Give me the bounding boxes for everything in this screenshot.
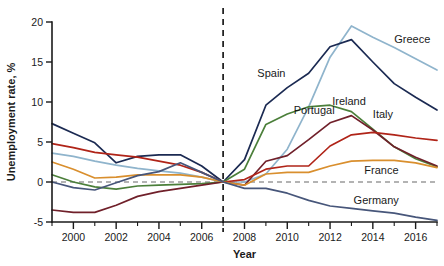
series-label-france: France — [364, 164, 398, 176]
chart-plot-area: -505101520200020022004200620082010201220… — [0, 0, 444, 266]
x-axis-title: Year — [233, 248, 257, 260]
unemployment-rate-chart: -505101520200020022004200620082010201220… — [0, 0, 444, 266]
x-tick-label-2016: 2016 — [404, 231, 428, 243]
y-tick-label-0: 0 — [37, 176, 43, 188]
series-label-italy: Italy — [373, 108, 394, 120]
y-tick-label--5: -5 — [34, 216, 43, 228]
x-tick-label-2014: 2014 — [361, 231, 385, 243]
x-tick-label-2006: 2006 — [190, 231, 214, 243]
y-tick-label-20: 20 — [31, 16, 43, 28]
x-tick-label-2008: 2008 — [233, 231, 257, 243]
series-label-greece: Greece — [394, 33, 430, 45]
series-label-portugal: Portugal — [294, 104, 335, 116]
y-tick-label-10: 10 — [31, 96, 43, 108]
y-tick-label-15: 15 — [31, 56, 43, 68]
y-tick-label-5: 5 — [37, 136, 43, 148]
y-axis-title: Unemployment rate, % — [5, 62, 17, 181]
x-tick-label-2002: 2002 — [104, 231, 128, 243]
x-tick-label-2004: 2004 — [147, 231, 171, 243]
x-tick-label-2012: 2012 — [318, 231, 342, 243]
x-tick-label-2000: 2000 — [62, 231, 86, 243]
series-label-spain: Spain — [257, 67, 285, 79]
x-tick-label-2010: 2010 — [276, 231, 300, 243]
series-label-ireland: Ireland — [332, 95, 366, 107]
series-label-germany: Germany — [354, 194, 400, 206]
